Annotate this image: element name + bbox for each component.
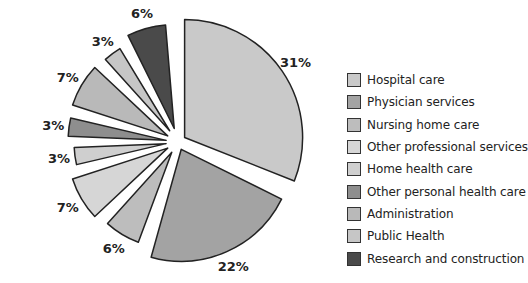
legend-label: Research and construction: [367, 252, 524, 266]
legend-swatch: [347, 185, 361, 199]
slice-percent-label: 3%: [92, 34, 114, 49]
legend-item-administration: Administration: [347, 203, 528, 225]
slice-percent-label: 22%: [218, 259, 249, 274]
legend-swatch: [347, 207, 361, 221]
legend-item-hospital-care: Hospital care: [347, 69, 528, 91]
chart-legend: Hospital care Physician services Nursing…: [347, 69, 528, 270]
legend-item-nursing-home-care: Nursing home care: [347, 114, 528, 136]
slice-percent-label: 6%: [103, 241, 125, 256]
slice-percent-label: 6%: [131, 6, 153, 21]
legend-item-other-professional-services: Other professional services: [347, 136, 528, 158]
slice-percent-label: 3%: [48, 151, 70, 166]
legend-swatch: [347, 252, 361, 266]
legend-label: Hospital care: [367, 73, 444, 87]
legend-item-public-health: Public Health: [347, 225, 528, 247]
slice-percent-label: 7%: [57, 200, 79, 215]
legend-swatch: [347, 162, 361, 176]
slice-percent-label: 3%: [42, 118, 64, 133]
legend-swatch: [347, 140, 361, 154]
legend-item-other-personal-health-care: Other personal health care: [347, 180, 528, 202]
legend-item-physician-services: Physician services: [347, 91, 528, 113]
legend-item-research-and-construction: Research and construction: [347, 247, 528, 269]
legend-swatch: [347, 95, 361, 109]
slice-percent-label: 31%: [280, 55, 311, 70]
legend-label: Other professional services: [367, 140, 528, 154]
legend-swatch: [347, 73, 361, 87]
slice-percent-label: 7%: [57, 70, 79, 85]
legend-swatch: [347, 229, 361, 243]
legend-label: Other personal health care: [367, 185, 526, 199]
legend-label: Nursing home care: [367, 118, 479, 132]
legend-label: Home health care: [367, 162, 472, 176]
legend-label: Physician services: [367, 95, 475, 109]
legend-label: Administration: [367, 207, 453, 221]
pie-slice-hospital-care: [185, 20, 303, 181]
legend-item-home-health-care: Home health care: [347, 158, 528, 180]
legend-swatch: [347, 118, 361, 132]
legend-label: Public Health: [367, 229, 444, 243]
pie-chart: 31%22%6%7%3%3%7%3%6%: [0, 0, 340, 283]
